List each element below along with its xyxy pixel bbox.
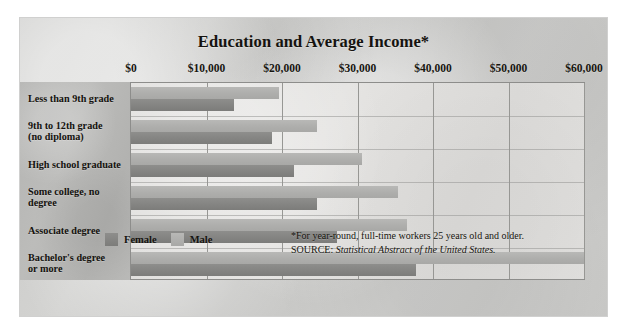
x-tick-label: $20,000: [263, 62, 300, 74]
row-separator: [131, 149, 584, 150]
chart-figure-panel: Education and Average Income* $0$10,000$…: [20, 18, 607, 316]
category-label: Bachelor's degreeor more: [28, 252, 128, 275]
category-label-line: High school graduate: [28, 159, 128, 170]
row-separator: [131, 182, 584, 183]
x-tick-label: $50,000: [490, 62, 527, 74]
bar-female: [131, 264, 416, 276]
category-label-line: or more: [28, 263, 128, 274]
category-label-line: Less than 9th grade: [28, 93, 128, 104]
row-separator: [131, 116, 584, 117]
bar-female: [131, 99, 234, 111]
x-tick-label: $0: [125, 62, 137, 74]
footnote-line: *For year-round, full-time workers 25 ye…: [291, 229, 591, 243]
bar-male: [131, 120, 317, 132]
x-tick-label: $10,000: [188, 62, 225, 74]
legend-item-female: Female: [105, 233, 157, 246]
category-label-line: Bachelor's degree: [28, 252, 128, 263]
x-tick-label: $40,000: [414, 62, 451, 74]
category-label-line: (no diploma): [28, 131, 128, 142]
chart-legend: Female Male: [105, 233, 212, 246]
bar-female: [131, 198, 317, 210]
female-swatch-icon: [105, 233, 118, 246]
bar-female: [131, 132, 272, 144]
bar-male: [131, 87, 279, 99]
row-separator: [131, 215, 584, 216]
category-label-line: 9th to 12th grade: [28, 120, 128, 131]
x-axis-tick-labels: $0$10,000$20,000$30,000$40,000$50,000$60…: [20, 62, 607, 80]
source-title: Statistical Abstract of the United State…: [336, 244, 496, 255]
x-tick-label: $30,000: [339, 62, 376, 74]
category-label-column: Less than 9th grade9th to 12th grade(no …: [20, 82, 130, 280]
category-label: Some college, nodegree: [28, 186, 128, 209]
legend-item-male: Male: [171, 233, 213, 246]
legend-label-female: Female: [124, 234, 157, 245]
legend-label-male: Male: [190, 234, 213, 245]
category-label: 9th to 12th grade(no diploma): [28, 120, 128, 143]
footnote-source: SOURCE: Statistical Abstract of the Unit…: [291, 243, 591, 257]
gridline: [207, 83, 208, 279]
gridline: [282, 83, 283, 279]
category-label: Less than 9th grade: [28, 93, 128, 104]
bar-female: [131, 165, 294, 177]
male-swatch-icon: [171, 233, 184, 246]
bar-male: [131, 186, 398, 198]
chart-footnote: *For year-round, full-time workers 25 ye…: [291, 229, 591, 256]
x-tick-label: $60,000: [565, 62, 602, 74]
bar-male: [131, 153, 362, 165]
source-prefix: SOURCE:: [291, 244, 336, 255]
chart-title: Education and Average Income*: [20, 32, 607, 52]
category-label-line: degree: [28, 197, 128, 208]
category-label: High school graduate: [28, 159, 128, 170]
category-label-line: Some college, no: [28, 186, 128, 197]
